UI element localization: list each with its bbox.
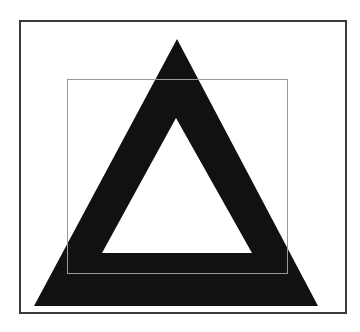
- figure-canvas: [0, 0, 360, 332]
